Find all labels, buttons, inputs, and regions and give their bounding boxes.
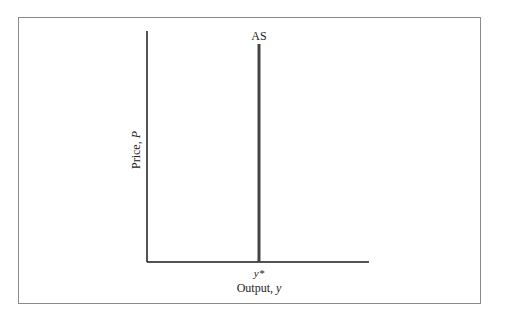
x-axis-label-text: Output,	[237, 281, 276, 295]
x-tick-ystar: y*	[253, 267, 265, 279]
y-axis-label: Price, P	[129, 130, 143, 169]
as-diagram: AS y* Output, y Price, P	[0, 0, 508, 319]
x-axis-label: Output, y	[237, 281, 282, 295]
y-axis-var: P	[129, 130, 143, 139]
x-axis-var: y	[275, 281, 282, 295]
y-axis-label-text: Price,	[129, 138, 143, 169]
as-label: AS	[251, 29, 266, 43]
